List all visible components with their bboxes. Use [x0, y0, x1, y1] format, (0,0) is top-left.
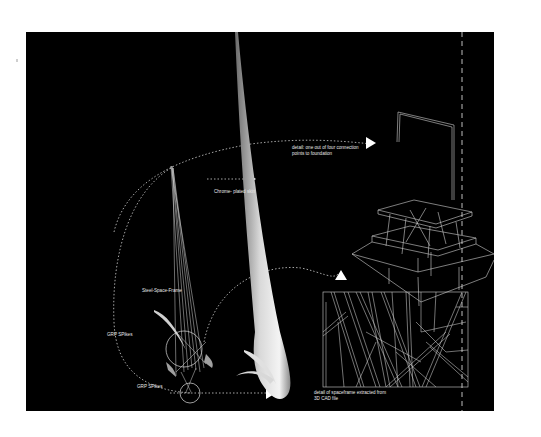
label-grp-spikes-2: GRP SPikes: [137, 384, 162, 390]
connector-left-loop: [114, 168, 191, 393]
label-chrome-skin: Chrome- plated skin: [214, 189, 255, 195]
connection-detail-drawing: [352, 112, 494, 306]
arrow-connection-icon: [366, 137, 376, 149]
sculpture-illustration: [26, 32, 494, 411]
label-spaceframe-detail-2: 3D CAD file: [314, 396, 338, 402]
label-steel-frame: Steel-Space-Frame: [142, 288, 182, 294]
label-grp-spikes-1: GRP SPikes: [107, 332, 132, 338]
highlight-circle-upper: [166, 331, 202, 367]
diagram-panel: Chrome- plated skin Steel-Space-Frame GR…: [26, 32, 494, 411]
label-connection-detail-2: points to foundation: [292, 151, 332, 157]
grp-spike-right: [204, 354, 213, 368]
spaceframe-detail-drawing: [323, 292, 468, 387]
steel-frame-spire: [171, 166, 206, 392]
margin-mark: [16, 59, 18, 62]
chrome-spire: [235, 32, 290, 399]
